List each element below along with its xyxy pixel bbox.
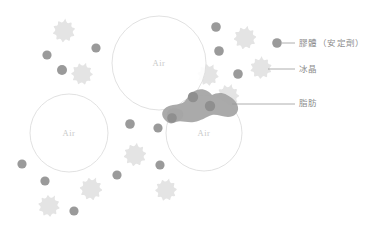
legend-label-ice-crystal: 冰晶	[299, 65, 318, 74]
colloid-particle	[40, 176, 49, 185]
colloid-particle	[17, 159, 26, 168]
ice-crystal-shape	[71, 63, 93, 85]
legend-label-colloid: 膠體（安定劑）	[299, 39, 365, 48]
ice-crystal-shape	[80, 178, 102, 200]
colloid-particle	[205, 101, 215, 111]
colloid-particle	[188, 92, 198, 102]
colloid-particle	[125, 119, 135, 129]
colloid-particle	[112, 170, 121, 179]
colloid-particle	[167, 113, 177, 123]
air-cell-label: Air	[197, 128, 210, 138]
legend-marker-colloid	[272, 38, 282, 48]
colloid-particle	[57, 65, 67, 75]
ice-crystal-shape	[251, 56, 272, 79]
ice-crystal-shape	[38, 195, 59, 216]
ice-crystal-shape	[53, 19, 75, 43]
colloid-particle	[69, 206, 78, 215]
colloid-particle	[211, 22, 221, 32]
colloid-particle	[155, 160, 164, 169]
colloid-particle	[153, 123, 162, 132]
colloid-particle	[91, 43, 100, 52]
ice-cream-structure-diagram: AirAirAir 膠體（安定劑）冰晶脂肪	[0, 0, 391, 228]
ice-crystal-shape	[155, 178, 177, 200]
legend-label-fat: 脂肪	[299, 99, 318, 108]
air-cell-label: Air	[152, 58, 165, 68]
colloid-particle	[214, 46, 224, 56]
colloid-particle	[42, 50, 51, 59]
air-cell-label: Air	[62, 128, 75, 138]
ice-crystal-shape	[234, 26, 256, 49]
colloid-particle	[233, 69, 243, 79]
ice-crystal-shape	[124, 143, 146, 166]
diagram-canvas: AirAirAir	[0, 0, 391, 228]
